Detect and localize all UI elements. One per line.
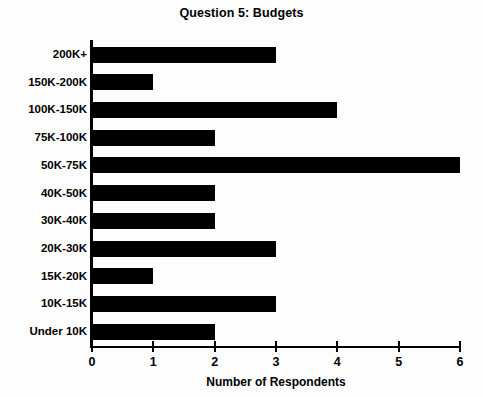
y-axis-tick-labels: 200K+150K-200K100K-150K75K-100K50K-75K40… (0, 41, 87, 346)
bar (92, 47, 276, 63)
bar-row (92, 96, 460, 124)
bar-row (92, 291, 460, 319)
bar-row (92, 235, 460, 263)
x-axis-tick (91, 341, 93, 352)
chart-title: Question 5: Budgets (0, 6, 483, 20)
y-axis-tick-label: 15K-20K (3, 270, 87, 282)
y-axis-tick-label: 100K-150K (3, 103, 87, 115)
y-axis-tick-label: 20K-30K (3, 242, 87, 254)
x-axis-tick (336, 341, 338, 352)
bar-row (92, 207, 460, 235)
bar (92, 241, 276, 257)
x-axis-tick-label: 0 (77, 355, 107, 369)
x-axis-tick-label: 1 (138, 355, 168, 369)
y-axis-tick-label: 40K-50K (3, 187, 87, 199)
bar (92, 157, 460, 173)
bar (92, 268, 153, 284)
bar-chart: Question 5: Budgets 200K+150K-200K100K-1… (0, 0, 483, 397)
x-axis-tick-label: 5 (384, 355, 414, 369)
x-axis-tick-label: 4 (322, 355, 352, 369)
bar-row (92, 152, 460, 180)
x-axis-tick (459, 341, 461, 352)
x-axis-tick-label: 2 (200, 355, 230, 369)
bar (92, 185, 215, 201)
bar (92, 102, 337, 118)
bar-row (92, 41, 460, 69)
bar-row (92, 180, 460, 208)
y-axis-tick-label: 50K-75K (3, 159, 87, 171)
x-axis-tick-label: 6 (445, 355, 475, 369)
bar (92, 130, 215, 146)
bar (92, 296, 276, 312)
bar (92, 213, 215, 229)
bar (92, 324, 215, 340)
x-axis-tick-label: 3 (261, 355, 291, 369)
y-axis-tick-label: 10K-15K (3, 297, 87, 309)
bar (92, 74, 153, 90)
x-axis-tick (214, 341, 216, 352)
y-axis-tick-label: 30K-40K (3, 214, 87, 226)
x-axis-title: Number of Respondents (92, 375, 460, 389)
x-axis-tick (152, 341, 154, 352)
y-axis-tick-label: 75K-100K (3, 131, 87, 143)
y-axis-tick-label: 150K-200K (3, 76, 87, 88)
x-axis-tick (275, 341, 277, 352)
bar-row (92, 263, 460, 291)
y-axis-tick-label: 200K+ (3, 48, 87, 60)
x-axis-tick (398, 341, 400, 352)
bar-row (92, 124, 460, 152)
plot-area (92, 41, 460, 346)
y-axis-tick-label: Under 10K (3, 325, 87, 337)
bar-row (92, 69, 460, 97)
